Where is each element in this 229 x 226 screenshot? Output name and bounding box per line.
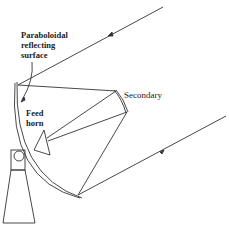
feed-label-line1: Feed <box>26 108 43 118</box>
feed-ray-bottom <box>48 112 127 141</box>
feed-label-line2: horn <box>26 118 43 128</box>
primary-label: Paraboloidal reflecting surface <box>21 30 68 60</box>
feed-horn-label: Feed horn <box>26 108 43 128</box>
mount-joint <box>14 151 24 161</box>
feed-ray-top <box>47 91 116 138</box>
label-leader <box>22 62 32 100</box>
pedestal <box>3 170 35 223</box>
reflected-ray-bottom <box>78 112 127 195</box>
primary-label-line1: Paraboloidal <box>21 30 68 40</box>
secondary-label: Secondary <box>124 91 162 100</box>
feed-horn <box>34 130 50 155</box>
incoming-ray-bottom <box>78 116 226 195</box>
reflected-ray-top <box>18 85 116 91</box>
ray-arrow-top <box>108 32 113 36</box>
primary-label-line3: surface <box>21 50 68 60</box>
primary-label-line2: reflecting <box>21 40 68 50</box>
